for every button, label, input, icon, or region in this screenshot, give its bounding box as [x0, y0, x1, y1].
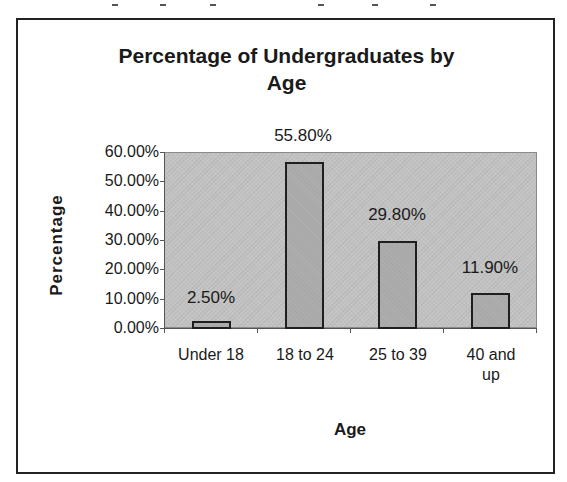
y-tick-label: 30.00% — [105, 231, 159, 249]
data-label-18-to-24: 55.80% — [274, 127, 332, 145]
x-tick-label-text: 25 to 39 — [369, 346, 427, 363]
x-axis-title: Age — [334, 420, 366, 440]
bar-25-to-39 — [378, 241, 417, 329]
y-tick-label: 10.00% — [105, 290, 159, 308]
x-tick-mark — [164, 328, 165, 333]
y-tick-label: 20.00% — [105, 260, 159, 278]
x-tick-mark — [536, 328, 537, 333]
x-tick-mark — [350, 328, 351, 333]
chart-title-line-1: Percentage of Undergraduates by — [118, 44, 454, 67]
x-tick-label-40-and-up: 40 and up — [446, 345, 536, 385]
y-tick-label: 60.00% — [105, 143, 159, 161]
x-tick-label-text: up — [446, 365, 536, 385]
bar-40-and-up — [471, 293, 510, 329]
x-tick-label-text: 18 to 24 — [276, 346, 334, 363]
y-tick-label: 50.00% — [105, 172, 159, 190]
x-tick-label-25-to-39: 25 to 39 — [353, 345, 443, 365]
y-axis-line — [164, 152, 165, 328]
y-axis-title: Percentage — [47, 194, 67, 296]
chart-title: Percentage of Undergraduates by Age — [18, 42, 555, 96]
x-tick-label-text: 40 and — [446, 345, 536, 365]
bar-under-18 — [192, 321, 231, 329]
x-tick-label-under-18: Under 18 — [166, 345, 256, 365]
data-label-40-and-up: 11.90% — [462, 259, 518, 277]
y-tick-label: 40.00% — [105, 202, 159, 220]
data-label-under-18: 2.50% — [187, 289, 235, 307]
x-tick-label-text: Under 18 — [178, 346, 244, 363]
data-label-25-to-39: 29.80% — [368, 206, 426, 224]
x-tick-mark — [257, 328, 258, 333]
chart-title-line-2: Age — [18, 69, 555, 96]
clipped-text-above — [0, 0, 567, 8]
x-tick-label-18-to-24: 18 to 24 — [260, 345, 350, 365]
y-tick-label: 0.00% — [114, 319, 159, 337]
x-tick-mark — [443, 328, 444, 333]
bar-18-to-24 — [285, 162, 324, 329]
